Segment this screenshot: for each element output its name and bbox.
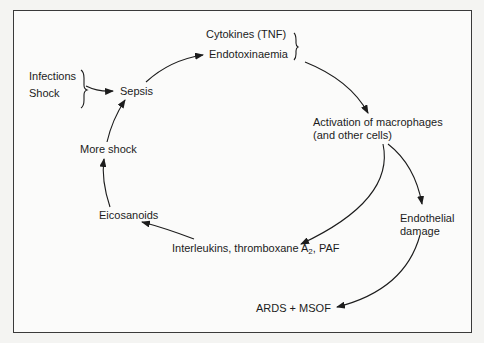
arrow-interleukins-to-eicosanoids — [142, 222, 194, 239]
node-shock: Shock — [29, 87, 60, 100]
node-endothelial-line1: Endothelial — [400, 212, 454, 225]
node-activation-line2: (and other cells) — [313, 129, 443, 142]
node-activation-line1: Activation of macrophages — [313, 116, 443, 129]
node-interleukins: Interleukins, thromboxane A2, PAF — [172, 242, 340, 258]
arrow-eicosanoids-to-more-shock — [103, 159, 110, 207]
node-endotoxinaemia: Endotoxinaemia — [209, 48, 288, 61]
arrow-activation-to-interleukins — [301, 144, 384, 244]
brace-infections-shock — [81, 70, 87, 108]
node-endothelial-line2: damage — [400, 225, 454, 238]
node-more-shock: More shock — [80, 143, 137, 156]
arrow-more-shock-to-sepsis — [107, 100, 125, 142]
node-sepsis: Sepsis — [120, 85, 153, 98]
node-eicosanoids: Eicosanoids — [99, 209, 158, 222]
node-ards-msof: ARDS + MSOF — [256, 302, 331, 315]
node-interleukins-text: Interleukins, thromboxane A — [172, 242, 308, 254]
node-infections: Infections — [29, 70, 76, 83]
arrow-activation-to-endothelial — [388, 144, 422, 204]
node-interleukins-tail: , PAF — [313, 242, 340, 254]
node-activation: Activation of macrophages (and other cel… — [313, 116, 443, 142]
brace-cytokines-endotoxinaemia — [294, 33, 298, 60]
arrow-endotoxinaemia-to-activation — [305, 62, 368, 113]
node-cytokines: Cytokines (TNF) — [206, 28, 286, 41]
arrow-sepsis-to-endotoxinaemia — [146, 55, 203, 82]
arrow-endothelial-to-ards — [337, 235, 420, 307]
node-endothelial: Endothelial damage — [400, 212, 454, 238]
arrow-infections-to-sepsis — [86, 86, 113, 91]
